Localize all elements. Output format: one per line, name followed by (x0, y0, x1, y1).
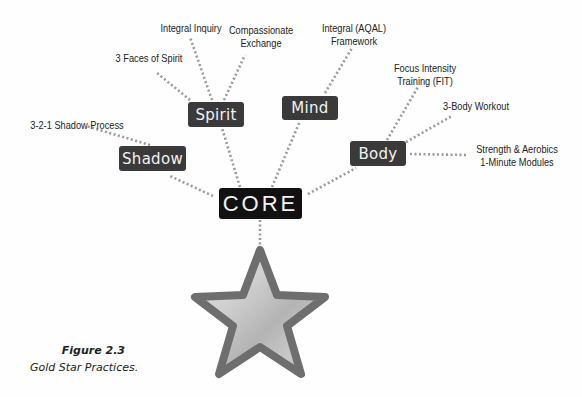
connector-core-body (308, 168, 356, 194)
connector-core-shadow (170, 176, 213, 196)
figure-caption: Gold Star Practices. (30, 361, 138, 374)
connector-mind-aqal (325, 48, 352, 93)
connector-core-mind (272, 121, 300, 187)
label-text: Integral Inquiry (160, 22, 221, 34)
gold-star-icon (185, 240, 335, 388)
node-body: Body (350, 141, 406, 166)
connector-body-workout (406, 116, 452, 142)
connector-spirit-inquiry (190, 37, 212, 100)
label-integral-aqal-framework: Integral (AQAL) Framework (319, 22, 389, 47)
label-text-line2: Framework (319, 35, 389, 48)
core-label: CORE (223, 191, 299, 217)
node-core: CORE (219, 188, 302, 219)
connector-core-spirit (222, 128, 240, 187)
node-label: Body (358, 145, 397, 163)
label-integral-inquiry: Integral Inquiry (151, 22, 230, 35)
node-spirit: Spirit (188, 102, 244, 127)
figure-number: Figure 2.3 (0, 344, 125, 357)
label-3-faces-of-spirit: 3 Faces of Spirit (101, 52, 198, 65)
node-label: Spirit (195, 106, 236, 124)
label-3-2-1-shadow-process: 3-2-1 Shadow Process (29, 119, 126, 132)
node-label: Mind (291, 99, 328, 117)
label-text-line1: Integral (AQAL) (319, 22, 389, 35)
node-mind: Mind (282, 96, 338, 120)
connector-body-strength (410, 154, 467, 155)
label-focus-intensity-training: Focus Intensity Training (FIT) (390, 62, 460, 87)
label-text: 3-2-1 Shadow Process (30, 119, 123, 131)
label-text-line2: Training (FIT) (390, 75, 460, 88)
label-text: 3 Faces of Spirit (116, 52, 183, 64)
label-text-line2: 1-Minute Modules (469, 156, 566, 169)
node-label: Shadow (122, 150, 183, 168)
label-compassionate-exchange: Compassionate Exchange (225, 24, 297, 49)
node-shadow: Shadow (119, 146, 186, 171)
connector-spirit-compassion (224, 55, 245, 100)
label-text: 3-Body Workout (443, 100, 509, 112)
label-text-line1: Focus Intensity (390, 62, 460, 75)
label-3-body-workout: 3-Body Workout (441, 100, 511, 113)
label-text-line1: Compassionate (225, 24, 297, 37)
label-text-line1: Strength & Aerobics (469, 143, 566, 156)
label-text-line2: Exchange (225, 37, 297, 50)
connector-spirit-faces (157, 73, 190, 100)
gold-star-practices-diagram: 3 Faces of Spirit Integral Inquiry Compa… (0, 0, 582, 397)
label-strength-aerobics-modules: Strength & Aerobics 1-Minute Modules (469, 143, 566, 168)
connector-body-fit (387, 87, 418, 140)
